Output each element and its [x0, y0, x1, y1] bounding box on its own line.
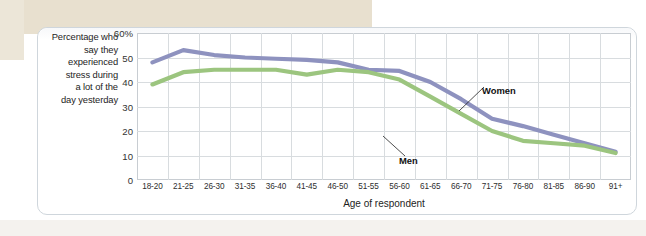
x-axis-tick-label: 26-30 — [204, 182, 224, 191]
x-axis-tick-label: 51-55 — [358, 182, 378, 191]
y-axis-tick-label: 60% — [114, 28, 133, 39]
x-axis-tick-label: 61-65 — [420, 182, 440, 191]
x-axis-tick-label: 46-50 — [327, 182, 347, 191]
y-axis-tick-label: 0 — [128, 175, 133, 186]
y-axis-caption-line: day yesterday — [10, 94, 118, 107]
x-axis-title: Age of respondent — [137, 198, 631, 209]
y-axis-caption-line: a lot of the — [10, 81, 118, 94]
x-axis-tick-label: 71-75 — [482, 182, 502, 191]
annotation-leader-men — [383, 136, 405, 156]
x-axis-tick-label: 91+ — [609, 182, 623, 191]
x-axis-tick-label: 86-90 — [574, 182, 594, 191]
y-axis-caption-line: stress during — [10, 69, 118, 82]
series-label-women: Women — [482, 85, 516, 96]
y-axis-caption: Percentage whosay theyexperiencedstress … — [10, 31, 118, 107]
x-axis-tick-labels: 18-2021-2526-3031-3536-4041-4546-5051-55… — [137, 182, 631, 196]
y-axis-tick-label: 40 — [122, 77, 133, 88]
y-axis-tick-label: 30 — [122, 101, 133, 112]
y-axis-caption-line: say they — [10, 44, 118, 57]
y-axis-tick-label: 20 — [122, 126, 133, 137]
x-axis-tick-label: 81-85 — [544, 182, 564, 191]
y-axis-tick-label: 50 — [122, 52, 133, 63]
x-axis-tick-label: 36-40 — [266, 182, 286, 191]
x-axis-tick-label: 66-70 — [451, 182, 471, 191]
x-axis-tick-label: 56-60 — [389, 182, 409, 191]
y-axis-caption-line: experienced — [10, 56, 118, 69]
x-axis-tick-label: 31-35 — [235, 182, 255, 191]
x-axis-tick-label: 18-20 — [142, 182, 162, 191]
plot-area: WomenMen — [137, 33, 631, 180]
y-axis-tick-label: 10 — [122, 150, 133, 161]
y-axis-tick-labels: 60%50403020100 — [103, 33, 133, 180]
chart-page: Percentage whosay theyexperiencedstress … — [0, 0, 646, 236]
y-axis-caption-line: Percentage who — [10, 31, 118, 44]
series-label-men: Men — [399, 155, 418, 166]
x-axis-tick-label: 76-80 — [513, 182, 533, 191]
series-lines — [137, 33, 631, 180]
scan-artifact-bottom — [0, 220, 646, 236]
series-line-men — [152, 70, 615, 153]
x-axis-tick-label: 21-25 — [173, 182, 193, 191]
x-axis-tick-label: 41-45 — [297, 182, 317, 191]
